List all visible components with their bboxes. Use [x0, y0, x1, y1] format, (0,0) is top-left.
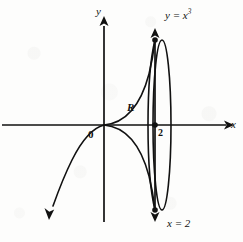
x-tick-label-2: 2	[158, 128, 163, 138]
curve-equation-exponent: 3	[188, 8, 192, 16]
y-axis	[100, 16, 109, 222]
region-label-r: R	[127, 102, 134, 113]
plot-canvas	[0, 0, 243, 242]
origin-label: 0	[88, 129, 94, 140]
curve-equation-label: y = x3	[165, 9, 191, 21]
point-x2	[152, 122, 158, 128]
curve-equation-base: y = x	[165, 9, 188, 21]
point-bottom	[152, 207, 158, 213]
cubic-curve-lower-left	[53, 125, 104, 206]
revolution-line-label: x = 2	[167, 218, 190, 229]
math-figure: y x 0 2 R y = x3 x = 2	[0, 0, 243, 242]
cubic-curve-arrowhead	[45, 208, 55, 220]
y-axis-label: y	[96, 6, 101, 17]
x-axis-label: x	[231, 119, 236, 130]
point-top	[152, 37, 158, 43]
